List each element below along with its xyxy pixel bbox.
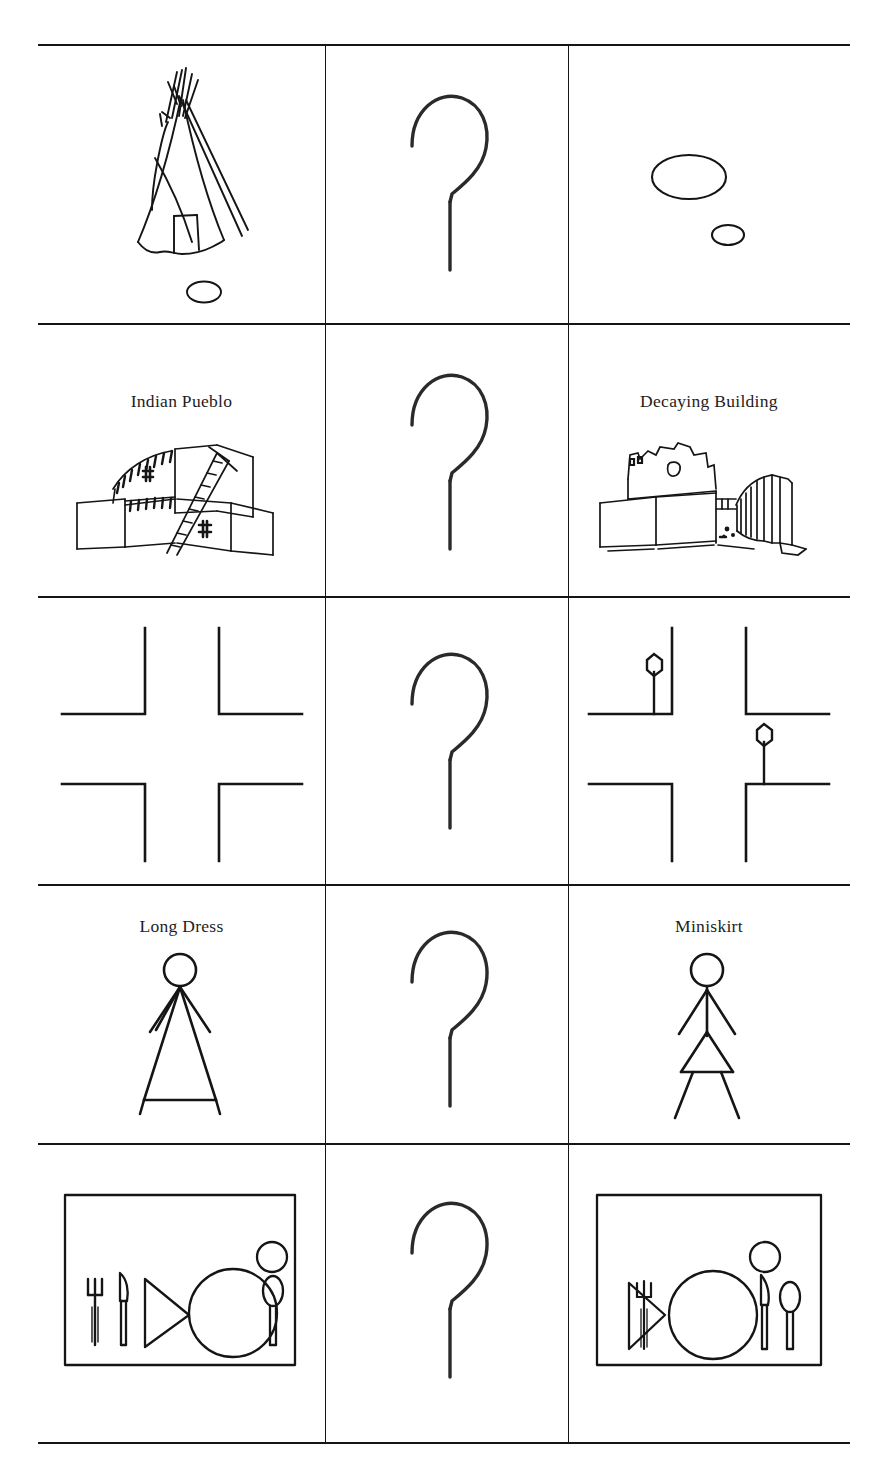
question-mark-icon	[325, 916, 568, 1116]
cell-r2-middle	[325, 323, 568, 596]
cell-label-miniskirt: Miniskirt	[568, 916, 850, 937]
cell-r3-right	[568, 596, 850, 884]
intersection-with-stop-signs-drawing	[568, 616, 850, 866]
grid-rule-bottom	[38, 1442, 850, 1444]
cell-label-indian-pueblo: Indian Pueblo	[38, 391, 325, 412]
question-mark-icon	[325, 80, 568, 280]
cell-r3-middle	[325, 596, 568, 884]
pictorial-comparison-figure: Indian Pueblo	[0, 0, 885, 1480]
cell-r4-left: Long Dress	[38, 884, 325, 1143]
intersection-drawing	[38, 616, 325, 866]
pueblo-building-drawing	[38, 431, 325, 561]
question-mark-icon	[325, 638, 568, 838]
question-mark-icon	[325, 1187, 568, 1387]
long-dress-figure	[38, 950, 325, 1130]
question-mark-icon	[325, 359, 568, 559]
cell-r5-right	[568, 1143, 850, 1442]
miniskirt-figure	[568, 950, 850, 1130]
two-ovals-drawing	[568, 144, 850, 274]
cell-r1-middle	[325, 44, 568, 323]
place-setting-casual	[568, 1187, 850, 1387]
cell-r5-middle	[325, 1143, 568, 1442]
cell-r2-right: Decaying Building	[568, 323, 850, 596]
cell-label-long-dress: Long Dress	[38, 916, 325, 937]
cell-r5-left	[38, 1143, 325, 1442]
cell-r2-left: Indian Pueblo	[38, 323, 325, 596]
cell-label-decaying-building: Decaying Building	[568, 391, 850, 412]
cell-r4-middle	[325, 884, 568, 1143]
decaying-building-drawing	[568, 433, 850, 563]
cell-r1-left	[38, 44, 325, 323]
cell-r1-right	[568, 44, 850, 323]
teepee-drawing	[38, 60, 325, 310]
place-setting-formal	[38, 1187, 325, 1387]
cell-r4-right: Miniskirt	[568, 884, 850, 1143]
cell-r3-left	[38, 596, 325, 884]
